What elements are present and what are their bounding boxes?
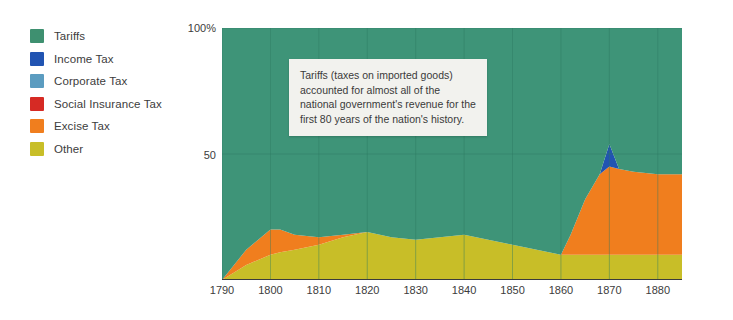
legend-swatch-income-tax xyxy=(30,52,44,66)
chart-legend: Tariffs Income Tax Corporate Tax Social … xyxy=(30,26,180,161)
legend-label-excise-tax: Excise Tax xyxy=(54,120,110,132)
legend-item-income-tax[interactable]: Income Tax xyxy=(30,49,180,69)
y-axis-tick-50: 50 xyxy=(170,149,216,161)
x-axis-tick-1810: 1810 xyxy=(307,284,331,296)
x-axis-tick-1830: 1830 xyxy=(403,284,427,296)
revenue-sources-area-chart: Tariffs Income Tax Corporate Tax Social … xyxy=(0,0,733,320)
annotation-text: Tariffs (taxes on imported goods) accoun… xyxy=(300,68,476,126)
x-axis-tick-1870: 1870 xyxy=(597,284,621,296)
legend-swatch-other xyxy=(30,142,44,156)
x-axis-tick-1840: 1840 xyxy=(452,284,476,296)
legend-label-income-tax: Income Tax xyxy=(54,53,114,65)
legend-label-other: Other xyxy=(54,143,83,155)
x-axis-tick-1800: 1800 xyxy=(258,284,282,296)
legend-item-tariffs[interactable]: Tariffs xyxy=(30,26,180,46)
legend-label-tariffs: Tariffs xyxy=(54,30,85,42)
x-axis-tick-1860: 1860 xyxy=(549,284,573,296)
legend-label-social-insurance-tax: Social Insurance Tax xyxy=(54,98,162,110)
legend-item-excise-tax[interactable]: Excise Tax xyxy=(30,116,180,136)
x-axis-tick-1880: 1880 xyxy=(646,284,670,296)
x-axis: 1790180018101820183018401850186018701880 xyxy=(222,284,682,304)
legend-item-social-insurance-tax[interactable]: Social Insurance Tax xyxy=(30,94,180,114)
legend-label-corporate-tax: Corporate Tax xyxy=(54,75,127,87)
legend-swatch-social-insurance-tax xyxy=(30,97,44,111)
legend-swatch-corporate-tax xyxy=(30,74,44,88)
x-axis-tick-1820: 1820 xyxy=(355,284,379,296)
legend-item-corporate-tax[interactable]: Corporate Tax xyxy=(30,71,180,91)
legend-swatch-excise-tax xyxy=(30,119,44,133)
legend-item-other[interactable]: Other xyxy=(30,139,180,159)
x-axis-tick-1790: 1790 xyxy=(210,284,234,296)
y-axis-tick-100: 100% xyxy=(170,22,216,34)
annotation-callout: Tariffs (taxes on imported goods) accoun… xyxy=(289,59,487,136)
x-axis-tick-1850: 1850 xyxy=(500,284,524,296)
legend-swatch-tariffs xyxy=(30,29,44,43)
